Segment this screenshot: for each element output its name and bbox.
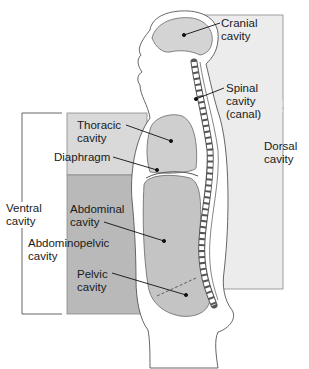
label-spinal-cavity: Spinal cavity (canal)	[226, 82, 261, 121]
label-ventral-cavity: Ventral cavity	[6, 202, 42, 228]
label-cranial-cavity: Cranial cavity	[221, 17, 257, 43]
label-abdominopelvic-cavity: Abdominopelvic cavity	[28, 237, 109, 263]
label-diaphragm: Diaphragm	[54, 151, 110, 164]
thoracic-cavity-shape	[147, 115, 197, 173]
diagram-artwork	[0, 0, 309, 369]
label-dorsal-cavity: Dorsal cavity	[264, 140, 297, 166]
label-abdominal-cavity: Abdominal cavity	[70, 203, 124, 229]
label-thoracic-cavity: Thoracic cavity	[77, 119, 121, 145]
label-pelvic-cavity: Pelvic cavity	[77, 268, 108, 294]
body-cavities-diagram: Cranial cavity Spinal cavity (canal) Dor…	[0, 0, 309, 369]
